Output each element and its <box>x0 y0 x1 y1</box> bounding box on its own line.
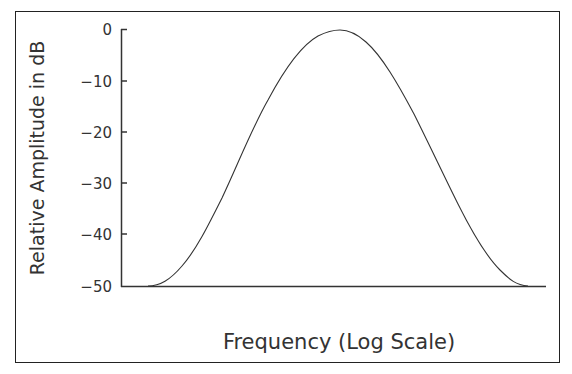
x-axis-label: Frequency (Log Scale) <box>223 330 455 354</box>
chart-plot: 0 −10 −20 −30 −40 −50 Relative Amplitude… <box>0 0 572 374</box>
response-curve <box>148 30 528 286</box>
y-tick-label-minus20: −20 <box>80 124 112 142</box>
y-axis-label: Relative Amplitude in dB <box>26 41 48 276</box>
y-tick-label-minus50: −50 <box>80 278 112 296</box>
y-tick-label-minus30: −30 <box>80 175 112 193</box>
y-tick-label-minus40: −40 <box>80 226 112 244</box>
y-tick-label-minus10: −10 <box>80 73 112 91</box>
y-tick-label-0: 0 <box>102 21 112 39</box>
y-tick-labels: 0 −10 −20 −30 −40 −50 <box>80 21 112 296</box>
